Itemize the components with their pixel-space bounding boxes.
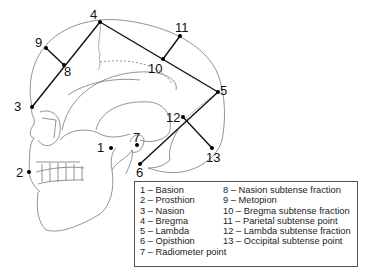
legend-box: 1 – Basion 2 – Prosthion 3 – Nasion 4 – … [134,181,358,267]
label-6: 6 [136,165,143,180]
legend-item: 6 – Opisthion [140,236,226,246]
chord-bregma-lambda [100,22,218,92]
legend-column-left: 1 – Basion 2 – Prosthion 3 – Nasion 4 – … [140,185,226,257]
point-metopion [44,46,48,50]
label-4: 4 [90,7,97,22]
legend-item: 11 – Parietal subtense point [223,216,351,226]
point-nasion [30,105,34,109]
point-bregma [98,20,102,24]
point-lambda-subtense [181,115,185,119]
legend-item: 8 – Nasion subtense fraction [223,185,351,195]
label-10: 10 [148,61,162,76]
label-7: 7 [133,130,140,145]
legend-item: 12 – Lambda subtense fraction [223,226,351,236]
label-2: 2 [16,165,23,180]
label-11: 11 [175,20,189,35]
legend-item: 2 – Prosthion [140,195,226,205]
label-9: 9 [35,35,42,50]
label-3: 3 [14,99,21,114]
label-8: 8 [64,64,71,79]
point-prosthion [27,170,31,174]
legend-item: 9 – Metopion [223,195,351,205]
subtense-occipital [183,117,212,148]
legend-item: 4 – Bregma [140,216,226,226]
legend-item: 13 – Occipital subtense point [223,236,351,246]
legend-item: 1 – Basion [140,185,226,195]
point-labels: 1 2 3 4 5 6 7 8 9 10 11 12 13 [14,7,227,180]
legend-item: 7 – Radiometer point [140,247,226,257]
subtense-metopion [46,48,64,65]
chord-lines [32,22,218,164]
point-basion [109,146,113,150]
label-5: 5 [220,83,227,98]
label-12: 12 [166,110,180,125]
label-13: 13 [206,150,220,165]
legend-column-right: 8 – Nasion subtense fraction 9 – Metopio… [223,185,351,247]
label-1: 1 [97,140,104,155]
legend-item: 3 – Nasion [140,206,226,216]
legend-item: 5 – Lambda [140,226,226,236]
subtense-parietal [163,36,180,59]
legend-item: 10 – Bregma subtense fraction [223,206,351,216]
